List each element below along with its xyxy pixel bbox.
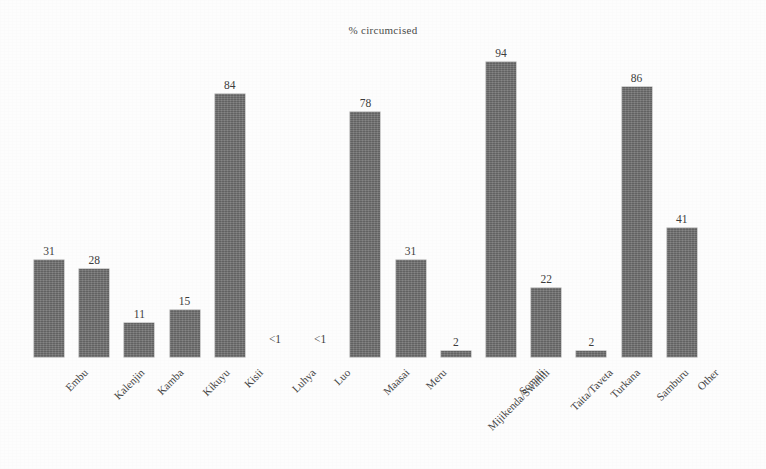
- bar-embu: [34, 260, 64, 357]
- x-axis-label-other: Other: [696, 367, 721, 392]
- bar-value-label: 84: [203, 80, 257, 92]
- bar-value-label: 86: [610, 73, 664, 85]
- bar-value-label: 2: [564, 337, 618, 349]
- bar-kisii: [215, 94, 245, 357]
- bar-value-label: 31: [384, 246, 438, 258]
- bar-value-label: 15: [158, 296, 212, 308]
- bar-kamba: [124, 323, 154, 357]
- bar-kikuyu: [170, 310, 200, 357]
- bar-kalenjin: [79, 269, 109, 357]
- x-axis-label-kalenjin: Kalenjin: [112, 367, 147, 402]
- bar-somali: [486, 62, 516, 357]
- x-axis-label-luo: Luo: [332, 367, 352, 387]
- bar-value-label: 22: [519, 274, 573, 286]
- bar-value-label: 28: [67, 255, 121, 267]
- bar-meru: [396, 260, 426, 357]
- bar-value-label: <1: [293, 334, 347, 346]
- bar-value-label: 41: [655, 214, 709, 226]
- bar-turkana: [576, 351, 606, 357]
- x-axis-label-kisii: Kisii: [243, 367, 266, 390]
- bar-samburu: [622, 87, 652, 357]
- bar-taita-taveta: [531, 288, 561, 357]
- x-axis-label-samburu: Samburu: [655, 367, 691, 403]
- bar-maasai: [350, 112, 380, 357]
- x-axis-label-maasai: Maasai: [381, 367, 411, 397]
- bar-mijikenda-swahili: [441, 351, 471, 357]
- bar-value-label: 11: [112, 309, 166, 321]
- x-axis-label-luhya: Luhya: [290, 367, 318, 395]
- x-axis-label-kamba: Kamba: [155, 367, 185, 397]
- plot-area: 31Embu28Kalenjin11Kamba15Kikuyu84Kisii<1…: [0, 0, 766, 469]
- x-axis-label-taita-taveta: Taita/Taveta: [569, 367, 615, 413]
- x-axis-label-embu: Embu: [63, 367, 89, 393]
- bar-value-label: 2: [429, 337, 483, 349]
- bar-value-label: 94: [474, 48, 528, 60]
- chart-page: % circumcised 31Embu28Kalenjin11Kamba15K…: [0, 0, 766, 469]
- bar-other: [667, 228, 697, 357]
- x-axis-label-meru: Meru: [424, 367, 449, 392]
- x-axis-label-kikuyu: Kikuyu: [201, 367, 232, 398]
- x-axis-label-turkana: Turkana: [609, 367, 642, 400]
- bar-value-label: 78: [338, 98, 392, 110]
